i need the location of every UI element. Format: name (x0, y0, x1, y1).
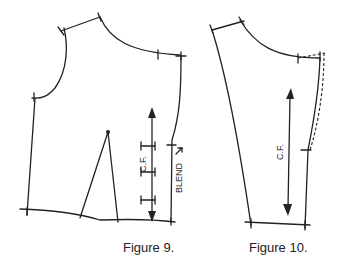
arrow-down-icon (283, 204, 292, 216)
cf-label-fig9: C.F. (138, 156, 148, 172)
neckline-curve (240, 20, 320, 58)
neckline-curve (100, 17, 180, 55)
figure-9-caption: Figure 9. (123, 240, 174, 255)
cf-label-fig10: C.F. (275, 144, 285, 160)
shoulder-seam (61, 17, 100, 31)
side-edge (212, 30, 251, 225)
extension-edge-dashed (310, 53, 324, 150)
figure-9-pattern (20, 13, 186, 225)
blend-label: BLEND (174, 163, 184, 193)
cf-grainline (288, 96, 290, 208)
arrow-up-icon (148, 107, 156, 118)
side-seam (27, 98, 35, 215)
pattern-diagram (0, 0, 339, 280)
buttonhole-markers (141, 142, 155, 204)
center-front-edge (171, 56, 181, 222)
dart-point (106, 130, 110, 134)
arrow-up-icon (286, 88, 294, 99)
hemline (245, 222, 310, 225)
shoulder-seam (212, 21, 244, 30)
armhole-curve (32, 28, 66, 98)
figure-10-caption: Figure 10. (249, 240, 308, 255)
figure-10-pattern (210, 17, 325, 230)
dart-legs (80, 132, 118, 222)
